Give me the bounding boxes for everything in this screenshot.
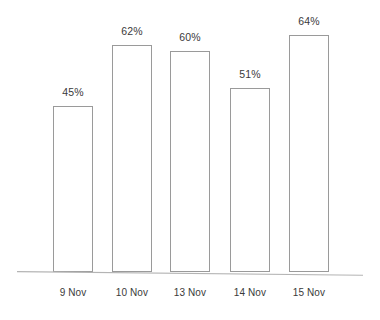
bar-value-label: 64% <box>279 15 339 27</box>
plot-area: 45% 62% 60% 51% 64% 9 Nov 10 Nov 13 Nov … <box>0 0 380 320</box>
bar-15-nov[interactable] <box>289 35 329 272</box>
bar-value-label: 51% <box>220 68 280 80</box>
bar-value-label: 62% <box>102 25 162 37</box>
x-axis-label-9-nov: 9 Nov <box>43 287 103 298</box>
bar-13-nov[interactable] <box>170 51 210 272</box>
x-axis-label-15-nov: 15 Nov <box>279 287 339 298</box>
x-axis-label-13-nov: 13 Nov <box>160 287 220 298</box>
bar-9-nov[interactable] <box>53 106 93 272</box>
x-axis-label-10-nov: 10 Nov <box>102 287 162 298</box>
bar-value-label: 60% <box>160 31 220 43</box>
x-axis-line <box>17 271 363 273</box>
bar-14-nov[interactable] <box>230 88 270 272</box>
bar-10-nov[interactable] <box>112 45 152 272</box>
bar-chart: 45% 62% 60% 51% 64% 9 Nov 10 Nov 13 Nov … <box>0 0 380 320</box>
bar-value-label: 45% <box>43 86 103 98</box>
x-axis-label-14-nov: 14 Nov <box>220 287 280 298</box>
